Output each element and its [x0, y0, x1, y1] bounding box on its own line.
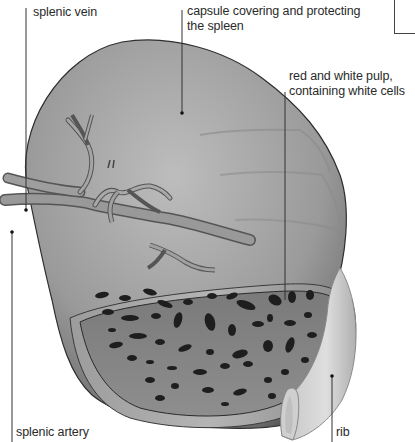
- label-rib: rib: [336, 425, 350, 440]
- label-capsule: capsule covering and protecting the sple…: [187, 4, 360, 34]
- label-capsule-line2: the spleen: [187, 19, 360, 34]
- label-pulp: red and white pulp, containing white cel…: [289, 69, 405, 99]
- label-pulp-line1: red and white pulp,: [289, 69, 405, 84]
- label-splenic-artery: splenic artery: [16, 425, 89, 440]
- label-capsule-line1: capsule covering and protecting: [187, 4, 360, 19]
- label-pulp-line2: containing white cells: [289, 84, 405, 99]
- label-splenic-vein: splenic vein: [33, 5, 97, 20]
